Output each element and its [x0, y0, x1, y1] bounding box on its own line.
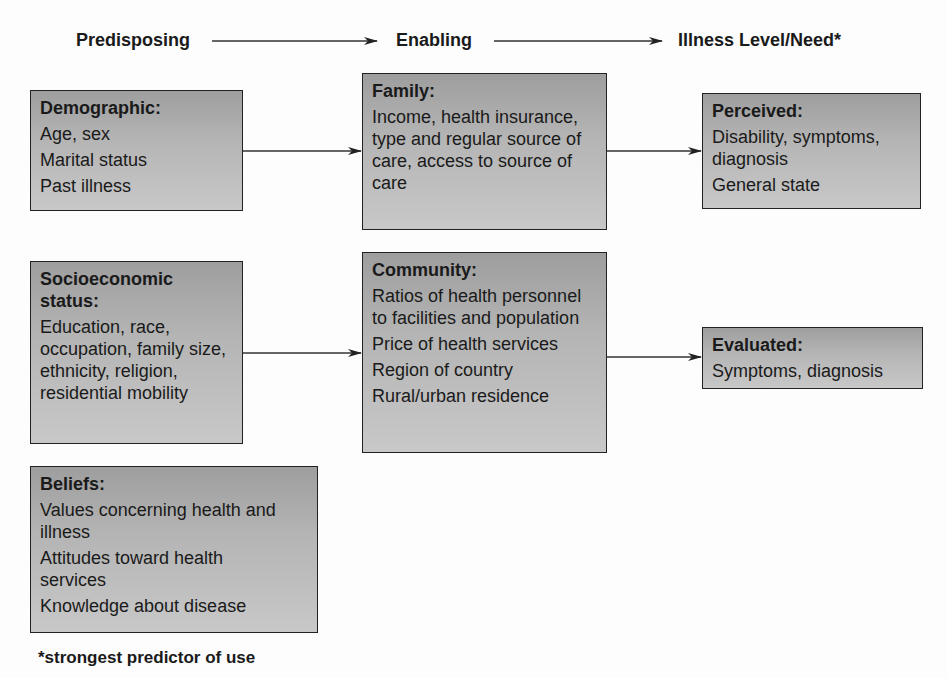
box-demographic-item: Past illness: [40, 175, 234, 197]
box-perceived-title: Perceived:: [712, 100, 912, 122]
box-evaluated-title: Evaluated:: [712, 334, 914, 356]
box-evaluated-item: Symptoms, diagnosis: [712, 360, 914, 382]
box-beliefs-item: Attitudes toward health services: [40, 547, 275, 591]
box-socioeconomic: Socioeconomic status: Education, race, o…: [30, 261, 243, 444]
box-socioeconomic-title: Socioeconomic status:: [40, 268, 190, 312]
box-perceived: Perceived: Disability, symptoms, diagnos…: [702, 93, 921, 209]
box-community-item: Ratios of health personnel to facilities…: [372, 285, 587, 329]
box-demographic-item: Marital status: [40, 149, 234, 171]
box-beliefs-item: Values concerning health and illness: [40, 499, 295, 543]
box-family: Family: Income, health insurance, type a…: [362, 73, 607, 230]
box-family-title: Family:: [372, 80, 598, 102]
box-family-item: Income, health insurance, type and regul…: [372, 106, 587, 194]
box-beliefs-title: Beliefs:: [40, 473, 309, 495]
box-demographic-item: Age, sex: [40, 123, 234, 145]
box-demographic-title: Demographic:: [40, 97, 234, 119]
box-community-title: Community:: [372, 259, 598, 281]
box-community: Community: Ratios of health personnel to…: [362, 252, 607, 453]
box-community-item: Region of country: [372, 359, 598, 381]
box-demographic: Demographic: Age, sex Marital status Pas…: [30, 90, 243, 211]
box-perceived-item: General state: [712, 174, 912, 196]
box-community-item: Rural/urban residence: [372, 385, 598, 407]
box-beliefs: Beliefs: Values concerning health and il…: [30, 466, 318, 633]
box-socioeconomic-item: Education, race, occupation, family size…: [40, 316, 232, 404]
box-perceived-item: Disability, symptoms, diagnosis: [712, 126, 917, 170]
box-community-item: Price of health services: [372, 333, 598, 355]
box-beliefs-item: Knowledge about disease: [40, 595, 309, 617]
footnote: *strongest predictor of use: [38, 648, 255, 668]
box-evaluated: Evaluated: Symptoms, diagnosis: [702, 327, 923, 389]
